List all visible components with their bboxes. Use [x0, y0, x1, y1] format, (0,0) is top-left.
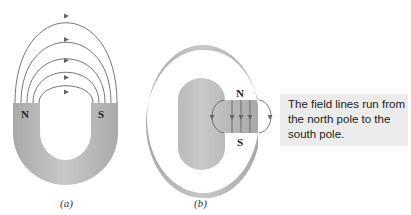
callout-text: The field lines run from the north pole …	[288, 98, 405, 140]
caption-b: (b)	[194, 197, 207, 210]
south-pole-label-b: S	[237, 136, 243, 148]
south-pole-label-a: S	[98, 108, 104, 120]
north-pole-label-a: N	[21, 108, 29, 120]
caption-a: (a)	[60, 197, 73, 210]
north-pole-label-b: N	[236, 87, 244, 99]
callout-box: The field lines run from the north pole …	[280, 94, 408, 146]
arrowheads-a	[64, 14, 69, 95]
